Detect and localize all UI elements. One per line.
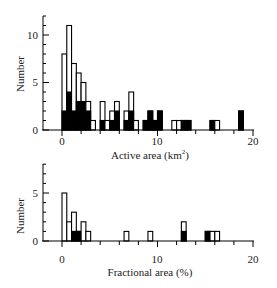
histogram-bar-total (177, 121, 182, 131)
histogram-bar-filled (67, 92, 72, 130)
x-tick-10: 10 (152, 135, 163, 147)
y-tick-10: 10 (18, 29, 38, 41)
histogram-bar-filled (181, 231, 186, 241)
y-tick-0: 0 (18, 124, 38, 136)
histogram-active-area: Number 0 5 10 0 10 20 Active area (km2) (0, 0, 277, 155)
histogram-bar-total (134, 121, 139, 131)
histogram-bar-total (91, 121, 96, 131)
histogram-bar-total (105, 121, 110, 131)
histogram-bar-filled (100, 121, 105, 131)
histogram-bar-total (210, 231, 215, 241)
histogram-bar-filled (205, 231, 210, 241)
histogram-bar-total (67, 222, 72, 241)
histogram-bar-filled (210, 121, 215, 131)
x-tick-0: 0 (59, 253, 65, 265)
histogram-bar-filled (115, 111, 120, 130)
x-tick-20: 20 (248, 253, 259, 265)
histogram-bar-filled (129, 111, 134, 130)
y-tick-5: 5 (18, 187, 38, 199)
histogram-bar-total (172, 121, 177, 131)
histogram-bar-filled (158, 111, 163, 130)
y-tick-0: 0 (18, 235, 38, 247)
histogram-bar-total (215, 231, 220, 241)
histogram-bar-total (62, 193, 67, 241)
histogram-bar-total (81, 222, 86, 241)
histogram-bar-filled (181, 121, 186, 131)
histogram-bar-filled (72, 231, 77, 241)
histogram-plot-active-area (0, 0, 277, 155)
histogram-bar-filled (143, 121, 148, 131)
histogram-bar-filled (153, 121, 158, 131)
histogram-bar-filled (76, 102, 81, 131)
x-axis-label: Fractional area (%) (108, 266, 193, 278)
x-tick-10: 10 (152, 253, 163, 265)
histogram-bar-total (148, 231, 153, 241)
histogram-bar-filled (148, 111, 153, 130)
y-axis-label: Number (14, 198, 26, 234)
histogram-fractional-area: Number 0 5 0 10 20 Fractional area (%) (0, 155, 277, 288)
x-tick-0: 0 (59, 135, 65, 147)
histogram-bar-filled (62, 111, 67, 130)
histogram-bar-filled (72, 111, 77, 130)
histogram-bar-total (124, 231, 129, 241)
histogram-bar-filled (76, 231, 81, 241)
histogram-bar-filled (81, 102, 86, 131)
histogram-bar-filled (110, 121, 115, 131)
histogram-bar-filled (186, 121, 191, 131)
histogram-bar-total (215, 121, 220, 131)
y-tick-5: 5 (18, 76, 38, 88)
histogram-bar-filled (239, 111, 244, 130)
x-tick-20: 20 (248, 135, 259, 147)
histogram-bar-filled (124, 121, 129, 131)
histogram-bar-total (86, 231, 91, 241)
histogram-bar-filled (86, 111, 91, 130)
